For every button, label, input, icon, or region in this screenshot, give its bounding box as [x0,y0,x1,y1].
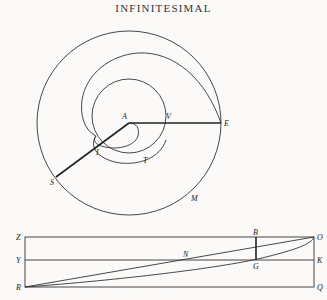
label-O: O [317,233,323,242]
label-V: V [166,112,172,121]
label-B: B [253,228,258,237]
label-T: T [143,156,148,165]
label-Q: Q [317,283,323,292]
label-K: K [316,256,323,265]
label-G: G [253,262,259,271]
label-R: R [15,283,21,292]
geometry-figures: A V E I T S M Z Y R B N G O K Q [0,0,327,300]
spiral-figure: A V E I T S M [37,31,229,215]
spiral-curve [82,53,221,163]
label-N: N [182,250,189,259]
rectangle-figure: Z Y R B N G O K Q [15,228,323,292]
radius-AS [56,123,129,177]
label-E: E [223,119,229,128]
label-M: M [190,194,199,203]
label-A: A [121,112,127,121]
label-Z: Z [16,233,21,242]
line-RO [25,237,314,287]
label-S: S [50,178,54,187]
label-Y: Y [16,256,22,265]
bleed-through-text: · · · · · · · · · · · · · · · · [30,291,310,297]
label-I: I [95,148,99,157]
